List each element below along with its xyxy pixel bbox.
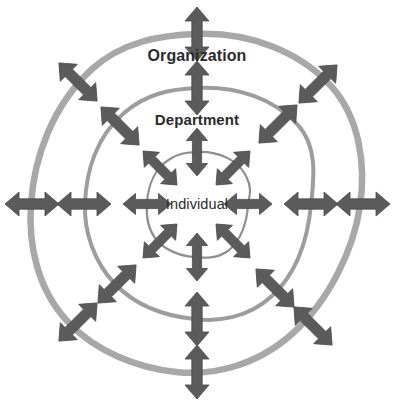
arrow-individual-sw <box>136 217 185 266</box>
arrow-organization-sw <box>50 294 105 349</box>
arrow-individual-se <box>209 217 258 266</box>
arrow-individual-nw <box>136 144 185 193</box>
diagram-canvas: Organization Department Individual <box>0 0 395 408</box>
rings-and-arrows-svg <box>0 0 395 408</box>
arrow-group-department <box>57 61 338 346</box>
arrow-group-individual <box>123 128 272 281</box>
arrow-organization-ne <box>290 56 345 111</box>
